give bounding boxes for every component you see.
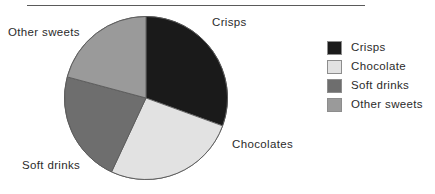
- legend-label-chocolate: Chocolate: [351, 61, 406, 73]
- legend-swatch-chocolate: [327, 60, 342, 74]
- chart-legend: CrispsChocolateSoft drinksOther sweets: [327, 41, 423, 112]
- legend-item-crisps: Crisps: [327, 41, 423, 55]
- legend-label-other-sweets: Other sweets: [351, 99, 423, 111]
- top-divider-rule: [27, 5, 365, 6]
- pie-label-chocolates: Chocolates: [232, 139, 293, 151]
- legend-item-soft-drinks: Soft drinks: [327, 79, 423, 93]
- pie-chart-graphic: [64, 16, 228, 180]
- pie-slices-group: [65, 17, 228, 180]
- legend-swatch-crisps: [327, 41, 342, 55]
- legend-item-other-sweets: Other sweets: [327, 98, 423, 112]
- pie-label-other-sweets: Other sweets: [8, 27, 80, 39]
- legend-label-soft-drinks: Soft drinks: [351, 80, 409, 92]
- legend-label-crisps: Crisps: [351, 42, 386, 54]
- pie-label-crisps: Crisps: [212, 17, 247, 29]
- pie-svg: [64, 16, 228, 180]
- legend-item-chocolate: Chocolate: [327, 60, 423, 74]
- pie-chart-figure: Other sweets Crisps Chocolates Soft drin…: [0, 0, 435, 194]
- legend-swatch-other-sweets: [327, 98, 342, 112]
- legend-swatch-soft-drinks: [327, 79, 342, 93]
- pie-label-soft-drinks: Soft drinks: [22, 160, 80, 172]
